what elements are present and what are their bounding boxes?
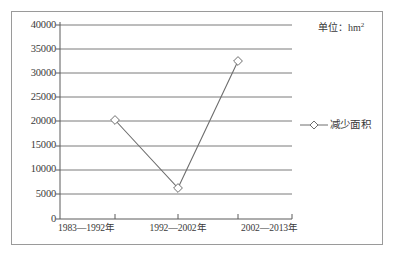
- unit-annotation-text: 单位：hm: [318, 22, 361, 33]
- legend-diamond-open-icon: [300, 119, 328, 131]
- x-axis-tick-label: 1992—2002年: [150, 222, 207, 234]
- x-axis-tick-label: 2002—2013年: [241, 222, 298, 234]
- x-axis-line: [60, 214, 292, 219]
- gridlines: [60, 25, 292, 194]
- chart-legend: 减少面积: [300, 118, 371, 132]
- unit-annotation: 单位：hm2: [318, 22, 364, 34]
- unit-annotation-exponent: 2: [361, 21, 365, 29]
- legend-item-label: 减少面积: [330, 119, 371, 131]
- x-axis-tick-label: 1983—1992年: [58, 222, 115, 234]
- x-axis-tick-labels: 1983—1992年 1992—2002年 2002—2013年: [58, 222, 298, 240]
- data-point-marker: [234, 57, 243, 66]
- y-axis-line: [56, 22, 60, 219]
- chart-figure: 40000 35000 30000 25000 20000 15000 1000…: [0, 0, 395, 258]
- data-point-markers: [111, 57, 243, 193]
- data-line-series-1: [115, 61, 238, 188]
